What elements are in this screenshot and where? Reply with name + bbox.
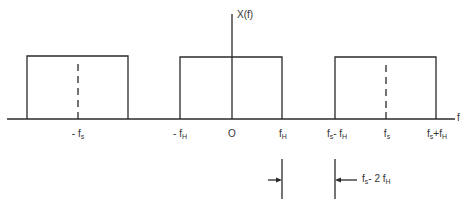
arrow-left-head-icon bbox=[335, 178, 341, 183]
x-axis-label: f bbox=[457, 112, 460, 124]
tick-label-neg-fh: - fH bbox=[173, 128, 187, 143]
spectrum-diagram bbox=[0, 0, 469, 205]
tick-label-fs-plus-fh: fs+fH bbox=[427, 128, 447, 143]
spectrum-baseband bbox=[180, 57, 282, 119]
tick-label-zero: O bbox=[228, 128, 236, 140]
tick-label-fs-minus-fh: fs- fH bbox=[327, 128, 347, 143]
tick-label-fs: fs bbox=[384, 128, 390, 143]
tick-label-neg-fs: - fs bbox=[72, 128, 84, 143]
y-axis-label: X(f) bbox=[237, 9, 253, 21]
tick-label-fh: fH bbox=[279, 128, 287, 143]
arrow-right-head-icon bbox=[276, 178, 282, 183]
guard-band-label: fs- 2 fH bbox=[362, 173, 391, 188]
